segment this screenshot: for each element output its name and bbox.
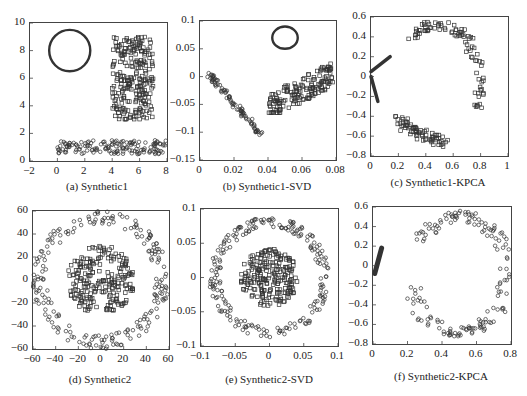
y-tick-label: −0.15: [157, 153, 195, 164]
y-tick-label: −0.05: [157, 97, 195, 108]
y-tick-label: −0.1: [157, 125, 195, 136]
y-tick-label: 0: [0, 273, 28, 284]
plot-d-synthetic2: [32, 210, 170, 350]
y-tick-label: 4: [0, 99, 25, 110]
y-tick-label: −20: [0, 296, 28, 307]
scatter-plot-area: [371, 17, 508, 156]
y-tick-label: 0.05: [158, 236, 196, 247]
y-tick-label: 6: [0, 71, 25, 82]
y-tick-label: 0: [0, 154, 25, 165]
y-tick-label: −0.6: [330, 317, 368, 328]
plot-a-synthetic1: [29, 22, 168, 162]
scatter-plot-area: [373, 207, 511, 344]
y-tick-label: 0: [328, 70, 366, 81]
plot-f-synthetic2-kpca: [372, 206, 512, 345]
caption-f: (f) Synthetic2-KPCA: [381, 370, 501, 382]
y-tick-label: 40: [0, 227, 28, 238]
y-tick-label: 0.1: [157, 14, 195, 25]
scatter-plot-area: [201, 209, 338, 346]
x-tick-label: 0.8: [490, 348, 527, 359]
x-tick-label: 0.1: [317, 350, 357, 361]
y-tick-label: 0: [330, 259, 368, 270]
y-tick-label: −0.4: [330, 298, 368, 309]
x-tick-label: 1: [487, 160, 527, 171]
y-tick-label: 0: [158, 271, 196, 282]
y-tick-label: 0.05: [157, 42, 195, 53]
y-tick-label: 10: [0, 16, 25, 27]
y-tick-label: 60: [0, 204, 28, 215]
y-tick-label: −0.8: [328, 149, 366, 160]
y-tick-label: 0.6: [330, 200, 368, 211]
caption-d: (d) Synthetic2: [50, 373, 150, 385]
plot-c-synthetic1-kpca: [370, 16, 509, 157]
plot-b-synthetic1-svd: [199, 20, 337, 161]
caption-b: (b) Synthetic1-SVD: [207, 180, 327, 192]
caption-e: (e) Synthetic2-SVD: [209, 373, 329, 385]
y-tick-label: −0.2: [330, 278, 368, 289]
y-tick-label: −40: [0, 319, 28, 330]
caption-c: (c) Synthetic1-KPCA: [378, 176, 498, 188]
y-tick-label: 8: [0, 44, 25, 55]
y-tick-label: −0.2: [328, 89, 366, 100]
y-tick-label: 2: [0, 126, 25, 137]
y-tick-label: −0.4: [328, 109, 366, 120]
caption-a: (a) Synthetic1: [47, 180, 147, 192]
y-tick-label: 0.2: [328, 50, 366, 61]
y-tick-label: 0.6: [328, 10, 366, 21]
scatter-plot-area: [30, 23, 167, 161]
y-tick-label: −0.8: [330, 337, 368, 348]
y-tick-label: 20: [0, 250, 28, 261]
y-tick-label: −0.6: [328, 129, 366, 140]
y-tick-label: 0.2: [330, 239, 368, 250]
x-tick-label: 0.08: [315, 164, 355, 175]
scatter-plot-area: [200, 21, 336, 160]
y-tick-label: 0: [157, 70, 195, 81]
plot-e-synthetic2-svd: [200, 208, 339, 347]
y-tick-label: −0.05: [158, 305, 196, 316]
scatter-plot-area: [33, 211, 169, 349]
y-tick-label: 0.4: [330, 220, 368, 231]
y-tick-label: 0.4: [328, 30, 366, 41]
y-tick-label: 0.1: [158, 202, 196, 213]
